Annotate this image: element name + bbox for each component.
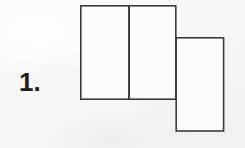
right-rectangle — [176, 38, 223, 131]
worksheet-figure: 1. — [0, 0, 245, 148]
left-rectangle — [81, 6, 129, 99]
middle-rectangle — [129, 6, 176, 99]
shape-diagram — [0, 0, 245, 148]
